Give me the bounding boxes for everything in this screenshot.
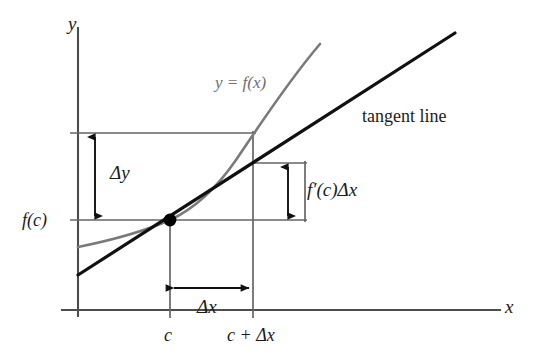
diagram-canvas (0, 0, 549, 359)
guide-lines-group (70, 131, 307, 318)
function-curve (78, 44, 320, 247)
f-prime-c-delta-x-label: f′(c)Δx (307, 180, 357, 199)
x-axis-label: x (505, 297, 513, 316)
x-tick-label-c-plus-delta-x: c + Δx (227, 326, 275, 344)
y-axis-label: y (68, 14, 76, 33)
function-curve-label: y = f(x) (215, 74, 266, 91)
delta-y-label: Δy (110, 163, 130, 182)
tangent-line (78, 33, 455, 275)
tangent-line-diagram: y x y = f(x) tangent line f(c) Δy Δx f′(… (0, 0, 549, 359)
tangent-line-label: tangent line (362, 107, 446, 125)
point-of-tangency (164, 214, 177, 227)
delta-x-label: Δx (197, 297, 217, 316)
f-of-c-axis-label: f(c) (22, 211, 47, 229)
x-tick-label-c: c (164, 326, 172, 344)
